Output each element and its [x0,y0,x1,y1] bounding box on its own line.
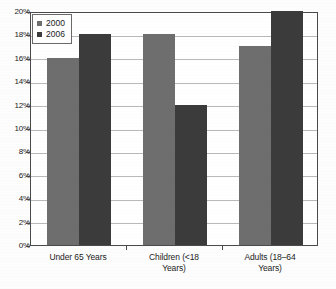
bar-group [143,13,207,245]
legend-item-2000: 2000 [37,18,65,29]
x-axis: Under 65 YearsChildren (<18Years)Adults … [30,249,318,289]
x-axis-tick-mark [126,246,127,250]
x-axis-category-label: Children (<18Years) [126,252,222,274]
legend-label-2006: 2006 [46,30,65,39]
bar-2006-0 [79,34,111,245]
x-axis-category-label: Under 65 Years [30,252,126,263]
bar-2006-1 [175,105,207,245]
grouped-bar-chart: 20%18%16%14%12%10%8%6%4%2%0% Under 65 Ye… [0,0,336,289]
bar-2000-2 [239,46,271,245]
bar-group [47,13,111,245]
chart-legend: 2000 2006 [32,14,72,44]
bar-2000-0 [47,58,79,245]
x-axis-category-label: Adults (18–64Years) [222,252,318,274]
bar-2000-1 [143,34,175,245]
bar-2006-2 [271,11,303,245]
bar-group [239,13,303,245]
legend-swatch-2006 [37,32,42,37]
plot-area [30,12,318,246]
x-axis-tick-mark [222,246,223,250]
legend-swatch-2000 [37,21,42,26]
legend-label-2000: 2000 [46,19,65,28]
y-axis: 20%18%16%14%12%10%8%6%4%2%0% [0,0,30,258]
y-axis-tick-mark [26,246,30,247]
legend-item-2006: 2006 [37,29,65,40]
